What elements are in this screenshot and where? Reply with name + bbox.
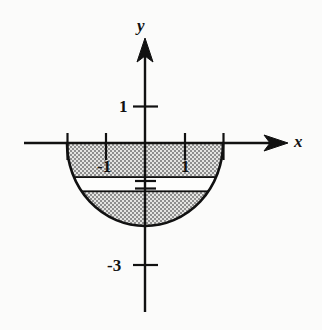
x-tick-label-1: 1 xyxy=(181,158,190,175)
y-tick-label-neg3: -3 xyxy=(107,257,121,274)
x-tick-label-neg1: -1 xyxy=(97,158,111,175)
y-axis-label: y xyxy=(137,17,145,34)
x-axis-label: x xyxy=(294,133,303,150)
coordinate-plane-svg xyxy=(0,0,322,330)
y-tick-label-1: 1 xyxy=(119,98,128,115)
math-figure-canvas: y x 1 -3 -1 1 xyxy=(0,0,322,330)
